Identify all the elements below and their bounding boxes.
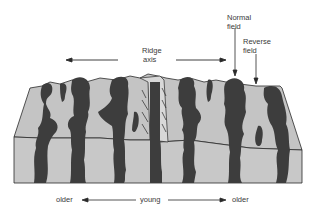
older-right-label: older <box>232 196 249 204</box>
older-left-label: older <box>56 196 73 204</box>
seafloor-block-diagram <box>0 0 314 213</box>
normal-field-label-line1: Normal <box>227 14 251 22</box>
axis-stripe <box>150 82 160 182</box>
reverse-field-label-line1: Reverse <box>243 38 271 46</box>
young-label: young <box>140 196 160 204</box>
ridge-axis-label-line2: axis <box>143 56 156 64</box>
ridge-axis-label-line1: Ridge <box>142 47 162 55</box>
normal-field-label-line2: field <box>227 23 241 31</box>
reverse-field-label-line2: field <box>243 47 257 55</box>
